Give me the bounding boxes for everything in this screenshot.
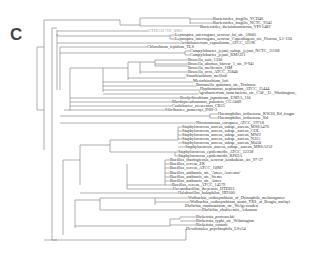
leaf-label: Chlorobium_tepidum_TLS bbox=[147, 45, 194, 50]
leaf-label: Bacteroides_thetaiotaomicron_VPI-5482 bbox=[200, 25, 271, 30]
leaf-label: Silicibacter_pomeroyi_DSS-3 bbox=[165, 108, 217, 113]
leaf-label: Desulfotalea_psychrophila_LSv54 bbox=[186, 227, 246, 232]
leaf-label: Ehrlichia_chaffeensis_Arkansas bbox=[202, 208, 257, 213]
